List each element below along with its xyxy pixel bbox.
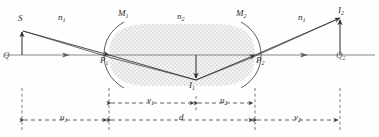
label-axis-point-Q2: Q2 <box>336 51 346 60</box>
label-surface-M1: M1 <box>118 9 129 18</box>
incident-rays-n1 <box>23 31 112 58</box>
label-source-S: S <box>18 14 23 23</box>
label-index-n1-right: n1 <box>298 13 306 22</box>
label-vertex-P2: P2 <box>256 56 265 65</box>
dimension-label-v2: v2 <box>294 113 301 122</box>
label-index-n2-medium: n2 <box>177 12 185 21</box>
dimension-label-u2: u2 <box>220 96 228 105</box>
dimension-label-u1: u1 <box>60 113 68 122</box>
label-index-n1-left: n1 <box>58 13 66 22</box>
label-surface-M2: M2 <box>236 9 247 18</box>
label-vertex-P1: P1 <box>100 56 109 65</box>
optics-ray-diagram: S Q n1 M1 n2 M2 n1 P1 P2 I1 I2 Q2 u1 d v… <box>0 0 379 137</box>
dimension-projection-lines <box>22 88 340 130</box>
label-image-I1: I1 <box>189 81 195 90</box>
dimension-label-v1: v1 <box>147 96 154 105</box>
diagram-canvas <box>0 0 379 137</box>
emergent-rays-n1 <box>251 18 340 58</box>
dimension-label-d: d <box>179 113 184 122</box>
label-object-foot-Q: Q <box>3 51 10 60</box>
label-image-I2: I2 <box>338 6 344 15</box>
